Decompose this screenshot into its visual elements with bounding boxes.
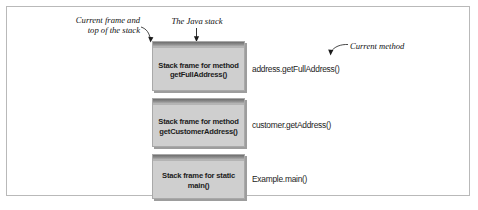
stack-frame-label: Stack frame for method getFullAddress() bbox=[153, 48, 244, 92]
stack-frame-box-top: Stack frame for method getFullAddress() bbox=[152, 41, 245, 91]
call-label-top: address.getFullAddress() bbox=[252, 64, 340, 74]
call-label-middle: customer.getAddress() bbox=[252, 120, 331, 130]
stack-frame-label-line2: main() bbox=[162, 181, 235, 190]
stack-frame-label-line1: Stack frame for method bbox=[158, 61, 238, 70]
stack-frame-label-line2: getFullAddress() bbox=[158, 70, 238, 79]
annotation-current-method: Current method bbox=[350, 41, 404, 51]
annotation-current-frame-line1: Current frame and bbox=[66, 15, 140, 25]
stack-frame-box-bottom: Stack frame for static main() bbox=[152, 154, 245, 199]
stack-diagram-figure: Current frame and top of the stack The J… bbox=[0, 0, 478, 210]
annotation-java-stack: The Java stack bbox=[166, 16, 228, 26]
stack-frame-label: Stack frame for static main() bbox=[153, 161, 244, 200]
stack-frame-box-middle: Stack frame for method getCustomerAddres… bbox=[152, 98, 245, 147]
annotation-current-frame-line2: top of the stack bbox=[66, 25, 140, 35]
stack-frame-label: Stack frame for method getCustomerAddres… bbox=[153, 105, 244, 148]
stack-frame-label-line2: getCustomerAddress() bbox=[158, 127, 238, 136]
annotation-current-frame: Current frame and top of the stack bbox=[66, 15, 140, 36]
call-label-bottom: Example.main() bbox=[252, 174, 307, 184]
stack-frame-label-line1: Stack frame for method bbox=[158, 117, 238, 126]
stack-frame-label-line1: Stack frame for static bbox=[162, 171, 235, 180]
